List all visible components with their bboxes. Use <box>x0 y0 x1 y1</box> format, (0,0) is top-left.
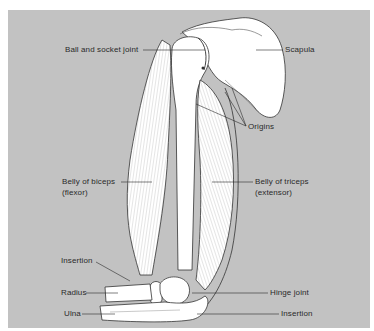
label-ulna: Ulna <box>64 309 81 318</box>
label-insertion-triceps: Insertion <box>281 309 313 318</box>
biceps-muscle <box>127 40 171 275</box>
label-triceps-extensor: (extensor) <box>255 188 292 197</box>
elbow-joint <box>150 277 190 305</box>
label-belly-of-triceps: Belly of triceps <box>255 177 309 186</box>
label-hinge-joint: Hinge joint <box>270 288 309 297</box>
label-ball-and-socket-joint: Ball and socket joint <box>65 45 138 54</box>
arm-illustration <box>0 0 374 331</box>
label-radius: Radius <box>61 288 87 297</box>
label-biceps-flexor: (flexor) <box>62 188 88 197</box>
label-origins: Origins <box>248 122 274 131</box>
label-belly-of-biceps: Belly of biceps <box>62 177 115 186</box>
leader-insertion-biceps <box>96 262 130 281</box>
label-insertion-biceps: Insertion <box>61 256 93 265</box>
triceps-muscle <box>195 80 238 315</box>
label-scapula: Scapula <box>285 45 315 54</box>
